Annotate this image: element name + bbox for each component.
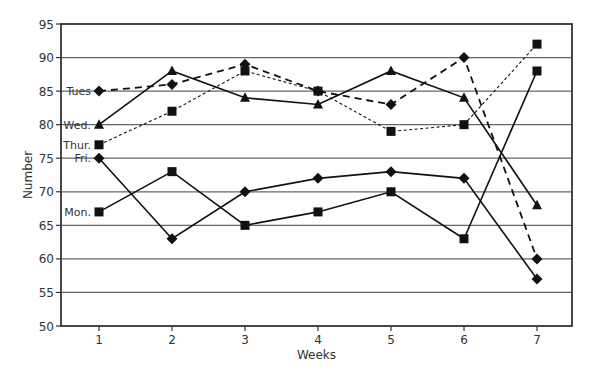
square-marker-icon — [95, 207, 104, 216]
diamond-marker-icon — [386, 166, 397, 177]
diamond-marker-icon — [532, 253, 543, 264]
x-tick-label: 7 — [533, 333, 541, 347]
square-marker-icon — [533, 66, 542, 75]
triangle-marker-icon — [94, 119, 104, 129]
x-tick-label: 6 — [460, 333, 468, 347]
x-tick-label: 2 — [168, 333, 176, 347]
y-tick-label: 95 — [39, 18, 54, 32]
diamond-marker-icon — [313, 173, 324, 184]
square-marker-icon — [460, 120, 469, 129]
square-marker-icon — [460, 234, 469, 243]
square-marker-icon — [241, 66, 250, 75]
square-marker-icon — [387, 187, 396, 196]
y-tick-label: 50 — [39, 320, 54, 334]
square-marker-icon — [241, 221, 250, 230]
square-marker-icon — [168, 107, 177, 116]
chart-canvas: 505560657075808590951234567WeeksNumberMo… — [0, 0, 593, 373]
y-tick-label: 70 — [39, 185, 54, 199]
diamond-marker-icon — [459, 173, 470, 184]
square-marker-icon — [387, 127, 396, 136]
y-tick-label: 80 — [39, 118, 54, 132]
diamond-marker-icon — [386, 99, 397, 110]
line-chart: 505560657075808590951234567WeeksNumberMo… — [0, 0, 593, 373]
y-tick-label: 85 — [39, 85, 54, 99]
square-marker-icon — [95, 140, 104, 149]
series-label-fri: Fri. — [74, 152, 91, 165]
series-label-wed: Wed. — [64, 119, 91, 132]
diamond-marker-icon — [167, 79, 178, 90]
x-tick-label: 4 — [314, 333, 322, 347]
diamond-marker-icon — [532, 274, 543, 285]
x-tick-label: 1 — [95, 333, 103, 347]
diamond-marker-icon — [459, 52, 470, 63]
y-tick-label: 60 — [39, 252, 54, 266]
series-label-thur: Thur. — [62, 139, 91, 152]
square-marker-icon — [314, 87, 323, 96]
triangle-marker-icon — [386, 65, 396, 75]
y-tick-label: 55 — [39, 286, 54, 300]
y-tick-label: 75 — [39, 152, 54, 166]
x-tick-label: 5 — [387, 333, 395, 347]
y-tick-label: 90 — [39, 51, 54, 65]
series-label-mon: Mon. — [64, 206, 91, 219]
y-tick-label: 65 — [39, 219, 54, 233]
series-label-tues: Tues — [65, 85, 91, 98]
x-tick-label: 3 — [241, 333, 249, 347]
triangle-marker-icon — [167, 65, 177, 75]
square-marker-icon — [533, 40, 542, 49]
square-marker-icon — [314, 207, 323, 216]
x-axis-label: Weeks — [297, 348, 336, 362]
diamond-marker-icon — [94, 86, 105, 97]
square-marker-icon — [168, 167, 177, 176]
y-axis-label: Number — [21, 151, 35, 199]
diamond-marker-icon — [240, 186, 251, 197]
